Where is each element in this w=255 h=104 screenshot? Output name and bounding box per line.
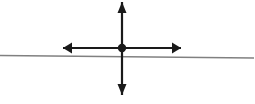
background-rect xyxy=(0,0,255,104)
diagram-svg xyxy=(0,0,255,104)
figure-canvas xyxy=(0,0,255,104)
intersection-point-dot xyxy=(118,44,126,52)
